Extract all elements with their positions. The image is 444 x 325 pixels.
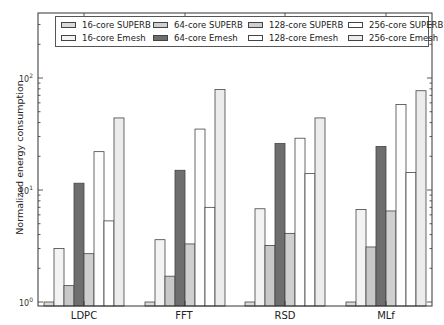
bar-fft-128-core-emesh xyxy=(195,129,205,306)
bar-rsd-64-core-emesh xyxy=(275,144,285,306)
y-tick-label-1: 100 xyxy=(19,296,33,308)
legend-item: 128-core Emesh xyxy=(248,32,338,44)
y-tick-label-10: 101 xyxy=(19,184,33,196)
bar-mlf-128-core-superb xyxy=(386,211,396,306)
bar-fft-256-core-emesh xyxy=(215,89,225,306)
bar-ldpc-64-core-emesh xyxy=(74,183,84,306)
x-tick-label-mlf: MLf xyxy=(356,310,416,321)
legend-item: 64-core SUPERB xyxy=(153,19,243,31)
legend-item: 128-core SUPERB xyxy=(248,19,343,31)
bar-rsd-16-core-emesh xyxy=(255,209,265,306)
legend-swatch xyxy=(153,35,168,41)
bar-mlf-64-core-emesh xyxy=(376,146,386,306)
legend-item: 64-core Emesh xyxy=(153,32,238,44)
legend-swatch xyxy=(61,35,76,41)
bar-ldpc-128-core-emesh xyxy=(94,152,104,306)
bar-fft-16-core-emesh xyxy=(155,240,165,306)
bar-mlf-64-core-superb xyxy=(366,247,376,306)
bar-mlf-16-core-superb xyxy=(346,302,356,306)
legend-item: 256-core SUPERB xyxy=(348,19,443,31)
bar-ldpc-16-core-emesh xyxy=(54,249,64,306)
y-tick-label-100: 102 xyxy=(19,72,33,84)
y-axis-label: Normalized energy consumption xyxy=(14,73,25,243)
legend-item: 256-core Emesh xyxy=(348,32,438,44)
x-tick-label-fft: FFT xyxy=(154,310,214,321)
bar-rsd-16-core-superb xyxy=(245,302,255,306)
x-tick-label-ldpc: LDPC xyxy=(54,310,114,321)
bar-rsd-64-core-superb xyxy=(265,245,275,306)
legend-item: 16-core SUPERB xyxy=(61,19,151,31)
legend-swatch xyxy=(61,22,76,28)
chart-canvas xyxy=(0,0,444,325)
bar-rsd-256-core-emesh xyxy=(315,118,325,306)
legend-swatch xyxy=(248,22,263,28)
bar-rsd-128-core-superb xyxy=(285,233,295,306)
bar-mlf-256-core-emesh xyxy=(416,91,426,306)
bar-fft-64-core-emesh xyxy=(175,170,185,306)
bar-rsd-128-core-emesh xyxy=(295,138,305,306)
legend-swatch xyxy=(248,35,263,41)
bar-fft-16-core-superb xyxy=(145,302,155,306)
legend-item: 16-core Emesh xyxy=(61,32,146,44)
legend-swatch xyxy=(348,35,363,41)
bar-ldpc-256-core-superb xyxy=(104,221,114,306)
bar-mlf-128-core-emesh xyxy=(396,104,406,306)
legend-swatch xyxy=(153,22,168,28)
bar-fft-64-core-superb xyxy=(165,276,175,306)
bar-mlf-256-core-superb xyxy=(406,173,416,306)
bar-ldpc-128-core-superb xyxy=(84,254,94,306)
legend-swatch xyxy=(348,22,363,28)
legend: 16-core SUPERB 64-core SUPERB 128-core S… xyxy=(55,16,429,47)
bar-ldpc-256-core-emesh xyxy=(114,118,124,306)
bar-ldpc-64-core-superb xyxy=(64,286,74,306)
bar-rsd-256-core-superb xyxy=(305,174,315,306)
bar-mlf-16-core-emesh xyxy=(356,209,366,306)
bar-fft-256-core-superb xyxy=(205,207,215,306)
x-tick-label-rsd: RSD xyxy=(255,310,315,321)
bar-ldpc-16-core-superb xyxy=(44,302,54,306)
bar-fft-128-core-superb xyxy=(185,244,195,306)
